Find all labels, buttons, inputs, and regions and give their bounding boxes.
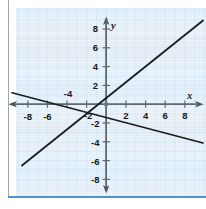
ytick-label-neg8: -8 [91, 174, 99, 185]
ytick-label-neg2: -2 [91, 118, 99, 129]
y-axis-name: y [109, 20, 116, 31]
ytick-label-neg4: -4 [91, 137, 100, 148]
page-rule-bottom [8, 196, 206, 198]
origin-dot [104, 102, 109, 107]
xtick-label-8: 8 [182, 110, 187, 121]
coordinate-plane-svg: 8 6 4 2 -2 -4 -6 -8 8 6 4 2 -2 -4 -6 -8 … [0, 0, 206, 196]
xtick-label-6: 6 [163, 110, 168, 121]
xtick-label-4: 4 [143, 110, 149, 121]
ytick-label-8: 8 [93, 23, 98, 34]
figure-root: 8 6 4 2 -2 -4 -6 -8 8 6 4 2 -2 -4 -6 -8 … [0, 0, 206, 209]
ytick-label-6: 6 [93, 42, 98, 53]
ytick-label-2: 2 [93, 80, 98, 91]
xtick-label-neg8: -8 [24, 111, 32, 122]
xtick-label-2: 2 [123, 110, 128, 121]
xtick-label-neg4: -4 [64, 88, 73, 99]
ytick-label-neg6: -6 [91, 156, 99, 167]
ytick-label-4: 4 [93, 61, 99, 72]
xtick-label-neg6: -6 [43, 111, 51, 122]
x-axis-name: x [186, 90, 192, 101]
plot-area: 8 6 4 2 -2 -4 -6 -8 8 6 4 2 -2 -4 -6 -8 … [0, 0, 206, 196]
